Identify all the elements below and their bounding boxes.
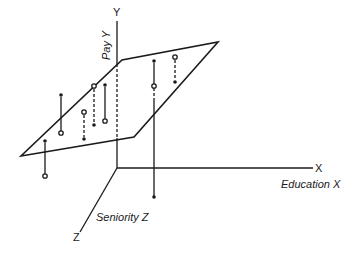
regression-plane-diagram: Y Pay Y X Education X Z Seniority Z [0, 0, 358, 255]
projection-dot [152, 195, 156, 199]
y-axis-name: Pay Y [100, 31, 112, 60]
x-axis-letter: X [315, 162, 322, 174]
diagram-canvas [0, 0, 358, 255]
z-axis-letter: Z [73, 231, 80, 243]
x-axis-name: Education X [281, 178, 340, 190]
regression-plane [21, 42, 218, 156]
z-axis-name: Seniority Z [96, 211, 149, 223]
y-axis-letter: Y [113, 6, 120, 18]
